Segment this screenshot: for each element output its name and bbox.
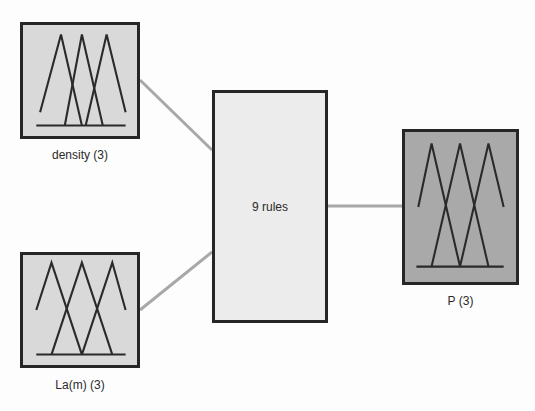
input-node-density[interactable] [20,22,140,139]
membership-functions-icon [23,255,137,365]
input-label-density: density (3) [20,148,140,162]
output-node-p[interactable] [402,129,519,285]
rule-count-label: 9 rules [215,200,325,214]
output-label-p: P (3) [402,294,519,308]
connector-density-to-rules [140,80,212,150]
rule-block[interactable]: 9 rules [212,90,328,323]
membership-functions-icon [405,132,516,282]
input-node-lam[interactable] [20,252,140,368]
input-label-lam: La(m) (3) [20,378,140,392]
membership-functions-icon [23,25,137,136]
connector-lam-to-rules [140,252,212,310]
